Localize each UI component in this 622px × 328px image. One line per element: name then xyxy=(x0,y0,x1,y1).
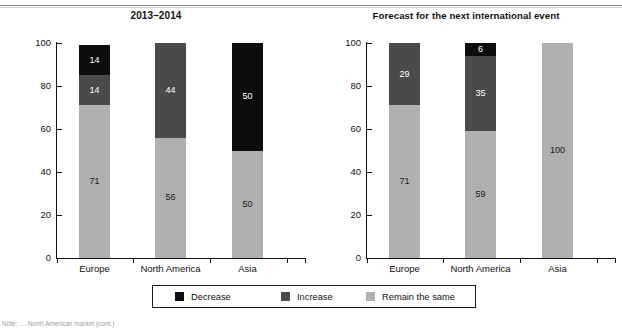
y-axis-tick-label: 100 xyxy=(335,37,361,48)
legend-item-remain[interactable]: Remain the same xyxy=(366,292,455,302)
plot-area-left: 71141456445050 xyxy=(57,43,305,258)
y-axis-tick-label: 60 xyxy=(25,123,51,134)
y-axis-tick xyxy=(57,86,62,87)
y-axis-tick-label: 80 xyxy=(25,80,51,91)
legend-label-increase: Increase xyxy=(297,292,333,302)
y-axis-tick xyxy=(367,215,372,216)
y-axis-tick-label: 0 xyxy=(335,252,361,263)
bar-segment-remain-the-same: 100 xyxy=(542,43,573,258)
bar-segment-remain-the-same: 71 xyxy=(389,105,420,258)
chart-legend: DecreaseIncreaseRemain the same xyxy=(152,285,476,308)
plot-area-right: 712959356100 xyxy=(367,43,615,258)
legend-label-decrease: Decrease xyxy=(191,292,231,302)
bar-segment-remain-the-same: 50 xyxy=(232,151,263,259)
y-axis-tick-label: 20 xyxy=(335,209,361,220)
legend-swatch-increase xyxy=(281,292,290,301)
bottom-note-clipped: Note: … North American market (cont.) xyxy=(2,320,302,328)
stacked-bar: 5050 xyxy=(232,43,263,258)
legend-swatch-remain xyxy=(366,292,375,301)
y-axis-tick xyxy=(57,215,62,216)
chart-panel-2013-2014: 2013–2014 71141456445050 020406080100Eur… xyxy=(0,0,312,280)
y-axis-tick xyxy=(57,129,62,130)
y-axis-tick-label: 80 xyxy=(335,80,361,91)
chart-title-left: 2013–2014 xyxy=(0,10,312,21)
bar-segment-increase: 35 xyxy=(465,56,496,131)
y-axis-tick xyxy=(367,129,372,130)
bar-segment-decrease: 50 xyxy=(232,43,263,151)
chart-panel-forecast: Forecast for the next international even… xyxy=(310,0,622,280)
chart-page: 2013–2014 71141456445050 020406080100Eur… xyxy=(0,0,622,328)
stacked-bar: 100 xyxy=(542,43,573,258)
y-axis-tick xyxy=(367,86,372,87)
bar-segment-remain-the-same: 56 xyxy=(155,138,186,258)
x-axis-tick xyxy=(305,258,306,263)
x-axis-line-right xyxy=(366,258,616,259)
bar-segment-remain-the-same: 59 xyxy=(465,131,496,258)
x-axis-category-label: Asia xyxy=(203,263,293,274)
y-axis-tick xyxy=(367,172,372,173)
x-axis-line-left xyxy=(56,258,306,259)
y-axis-tick xyxy=(57,43,62,44)
y-axis-tick xyxy=(57,172,62,173)
legend-swatch-decrease xyxy=(175,292,184,301)
y-axis-tick-label: 100 xyxy=(25,37,51,48)
y-axis-tick-label: 40 xyxy=(25,166,51,177)
y-axis-tick xyxy=(367,43,372,44)
chart-title-right: Forecast for the next international even… xyxy=(310,10,622,21)
y-axis-tick-label: 40 xyxy=(335,166,361,177)
bar-segment-increase: 29 xyxy=(389,43,420,105)
stacked-bar: 711414 xyxy=(79,43,110,258)
legend-item-decrease[interactable]: Decrease xyxy=(175,292,231,302)
bar-segment-remain-the-same: 71 xyxy=(79,105,110,258)
y-axis-tick-label: 20 xyxy=(25,209,51,220)
y-axis-tick-label: 0 xyxy=(25,252,51,263)
bar-segment-decrease: 6 xyxy=(465,43,496,56)
y-axis-tick-label: 60 xyxy=(335,123,361,134)
stacked-bar: 59356 xyxy=(465,43,496,258)
x-axis-category-label: Asia xyxy=(513,263,603,274)
bar-segment-increase: 14 xyxy=(79,75,110,105)
stacked-bar: 7129 xyxy=(389,43,420,258)
x-axis-tick xyxy=(615,258,616,263)
bar-segment-decrease: 14 xyxy=(79,45,110,75)
legend-label-remain: Remain the same xyxy=(382,292,455,302)
bar-segment-increase: 44 xyxy=(155,43,186,138)
stacked-bar: 5644 xyxy=(155,43,186,258)
legend-item-increase[interactable]: Increase xyxy=(281,292,333,302)
